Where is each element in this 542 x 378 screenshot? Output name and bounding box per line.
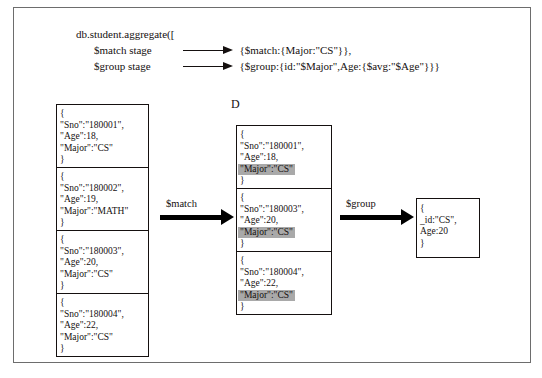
match-arrow-label: $match (166, 198, 197, 209)
match-stage-label: $match stage (94, 42, 180, 58)
input-documents-column: {"Sno":"180001","Age":18,"Major":"CS"}{"… (56, 104, 149, 357)
document-field: "Age":18, (240, 152, 331, 164)
document-box: {"Sno":"180004","Age":22,"Major":"CS"} (56, 293, 149, 357)
document-field: { (60, 171, 148, 183)
document-field: _id:"CS", (420, 215, 479, 227)
document-field: "Age":20, (240, 215, 331, 227)
document-field: "Sno":"180003", (240, 204, 331, 216)
document-field: } (240, 301, 331, 313)
group-stage-label: $group stage (94, 58, 180, 74)
code-line-match-stage: $match stage {$match:{Major:"CS"}}, (76, 42, 440, 58)
document-field-highlighted: "Major":"CS" (240, 290, 331, 302)
group-stage-expression: {$group:{id:"$Major",Age:{$avg:"$Age"}}} (240, 58, 440, 74)
document-field: { (240, 129, 331, 141)
document-field-highlighted: "Major":"CS" (240, 164, 331, 176)
field-highlight: "Major":"CS" (238, 290, 295, 302)
document-field: "Major":"CS" (60, 143, 148, 155)
document-field: "Age":18, (60, 131, 148, 143)
document-field: { (60, 297, 148, 309)
document-box: {_id:"CS",Age:20} (416, 198, 480, 258)
field-highlight: "Major":"CS" (238, 164, 295, 176)
document-field: "Sno":"180004", (240, 267, 331, 279)
document-field: } (420, 238, 479, 250)
document-field: } (60, 280, 148, 292)
document-field: } (60, 343, 148, 355)
group-arrow-shaft-icon (340, 215, 402, 220)
group-arrow-head-icon (401, 209, 414, 225)
document-field: { (60, 108, 148, 120)
document-field: } (240, 238, 331, 250)
code-line-group-stage: $group stage {$group:{id:"$Major",Age:{$… (76, 58, 440, 74)
aggregate-call-text: db.student.aggregate([ (76, 28, 174, 40)
document-field: "Age":22, (60, 320, 148, 332)
document-field: "Age":19, (60, 194, 148, 206)
document-field: "Sno":"180004", (60, 309, 148, 321)
group-flow-arrow: $group (340, 198, 416, 224)
match-flow-arrow: $match (160, 198, 236, 224)
document-field: { (420, 203, 479, 215)
document-field: "Sno":"180001", (60, 120, 148, 132)
document-field: "Major":"MATH" (60, 206, 148, 218)
document-field: "Sno":"180001", (240, 141, 331, 153)
document-box: {"Sno":"180003","Age":20,"Major":"CS"} (236, 188, 332, 252)
document-box: {"Sno":"180003","Age":20,"Major":"CS"} (56, 230, 149, 294)
document-field: "Age":20, (60, 257, 148, 269)
match-arrow-shaft-icon (160, 215, 222, 220)
document-box: {"Sno":"180004","Age":22,"Major":"CS"} (236, 251, 332, 315)
document-field: } (60, 217, 148, 229)
document-field: "Sno":"180002", (60, 183, 148, 195)
match-arrow-head-icon (221, 209, 234, 225)
document-field: { (60, 234, 148, 246)
document-field: { (240, 255, 331, 267)
document-field: } (60, 154, 148, 166)
document-field: "Age":22, (240, 278, 331, 290)
group-stage-arrow-icon (183, 62, 235, 72)
group-arrow-label: $group (346, 198, 376, 209)
match-stage-arrow-icon (183, 46, 235, 56)
figure-marker-d: D (231, 96, 240, 112)
result-document-column: {_id:"CS",Age:20} (416, 198, 480, 258)
field-highlight: "Major":"CS" (238, 227, 295, 239)
document-box: {"Sno":"180001","Age":18,"Major":"CS"} (56, 104, 149, 168)
figure-canvas: db.student.aggregate([ $match stage {$ma… (0, 0, 542, 378)
document-field: "Sno":"180003", (60, 246, 148, 258)
document-box: {"Sno":"180001","Age":18,"Major":"CS"} (236, 125, 332, 189)
matched-documents-column: {"Sno":"180001","Age":18,"Major":"CS"}{"… (236, 125, 332, 315)
figure-outer-frame: db.student.aggregate([ $match stage {$ma… (13, 7, 531, 363)
document-field: "Major":"CS" (60, 269, 148, 281)
match-stage-expression: {$match:{Major:"CS"}}, (240, 42, 352, 58)
document-box: {"Sno":"180002","Age":19,"Major":"MATH"} (56, 167, 149, 231)
document-field-highlighted: "Major":"CS" (240, 227, 331, 239)
aggregate-code-block: db.student.aggregate([ $match stage {$ma… (76, 26, 440, 74)
document-field: } (240, 175, 331, 187)
code-line-call: db.student.aggregate([ (76, 26, 440, 42)
document-field: "Major":"CS" (60, 332, 148, 344)
document-field: Age:20 (420, 226, 479, 238)
document-field: { (240, 192, 331, 204)
